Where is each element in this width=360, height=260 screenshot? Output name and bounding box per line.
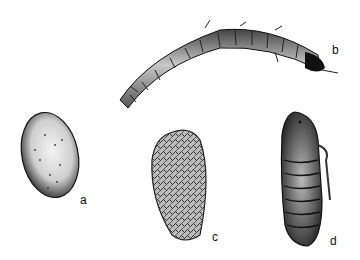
- label-d: d: [330, 234, 337, 248]
- label-a: a: [80, 193, 87, 207]
- label-c: c: [212, 230, 218, 244]
- cocoon-illustration: [152, 130, 206, 240]
- pupa-illustration: [281, 112, 330, 246]
- larva-illustration: [120, 20, 338, 108]
- insect-life-stages-figure: a b c d: [0, 0, 360, 260]
- label-b: b: [332, 43, 339, 57]
- egg-illustration: [14, 107, 87, 203]
